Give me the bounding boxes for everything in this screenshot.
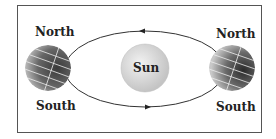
left-north-label: North xyxy=(35,25,75,39)
earth-left-icon xyxy=(20,40,80,100)
right-south-label: South xyxy=(216,100,256,114)
orbit-arrow-top xyxy=(139,29,145,34)
orbit-arrow-bottom xyxy=(145,105,151,110)
sun-label: Sun xyxy=(133,61,159,75)
left-south-label: South xyxy=(36,99,76,113)
earth-right-icon xyxy=(206,44,258,94)
right-north-label: North xyxy=(216,27,256,41)
